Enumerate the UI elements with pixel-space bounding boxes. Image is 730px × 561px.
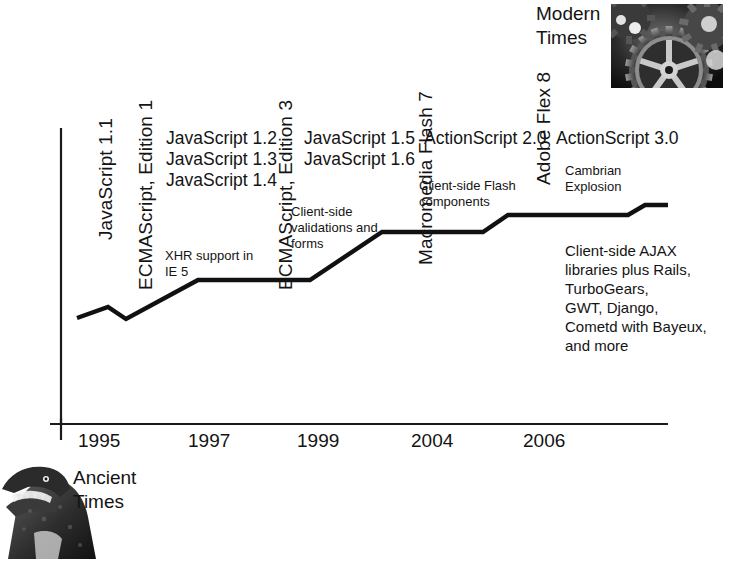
vertical-label-ecmascript-edition-3: ECMAScript, Edition 3 [276, 100, 295, 290]
vertical-label-ecmascript-edition-1: ECMAScript, Edition 1 [136, 100, 155, 290]
label-javascript-15-16: JavaScript 1.5 JavaScript 1.6 [304, 128, 415, 170]
vertical-label-javascript-1-1: JavaScript 1.1 [96, 118, 115, 240]
ancient-times-caption: Ancient Times [73, 466, 136, 514]
note-xhr-support: XHR support in IE 5 [165, 248, 253, 280]
note-client-side-flash: Client-side Flash components [419, 178, 516, 210]
label-actionscript-20: ActionScript 2.0 [424, 128, 547, 149]
note-client-side-ajax: Client-side AJAX libraries plus Rails, T… [565, 241, 707, 355]
year-label-1999: 1999 [297, 430, 339, 452]
year-label-1995: 1995 [78, 430, 120, 452]
label-javascript-12-13-14: JavaScript 1.2 JavaScript 1.3 JavaScript… [166, 128, 277, 191]
note-cambrian-explosion: Cambrian Explosion [565, 163, 621, 195]
modern-times-caption: Modern Times [536, 2, 600, 50]
label-actionscript-30: ActionScript 3.0 [556, 128, 679, 149]
gears-photo [611, 4, 723, 88]
note-client-side-forms: Client-side validations and forms [291, 204, 378, 252]
timeline-figure: JavaScript 1.1 ECMAScript, Edition 1 ECM… [0, 0, 730, 561]
year-label-2004: 2004 [411, 430, 453, 452]
year-label-1997: 1997 [188, 430, 230, 452]
year-label-2006: 2006 [523, 430, 565, 452]
